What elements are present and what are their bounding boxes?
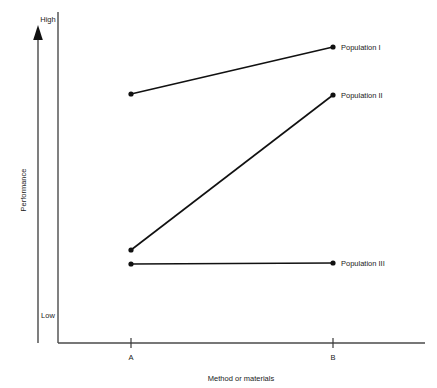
y-axis-title: Performance — [19, 169, 28, 212]
series-label-population-3: Population III — [341, 259, 385, 268]
data-point-population-1-b — [330, 44, 335, 49]
series-line-population-2 — [131, 95, 333, 250]
x-tick-label-b: B — [330, 353, 335, 362]
chart-canvas: Population I Population II Population II… — [0, 0, 437, 388]
performance-method-line-chart: Population I Population II Population II… — [0, 0, 437, 388]
x-tick-label-a: A — [128, 353, 133, 362]
series-label-population-2: Population II — [341, 91, 383, 100]
series-population-1 — [128, 44, 335, 96]
data-point-population-1-a — [128, 91, 133, 96]
series-line-population-1 — [131, 47, 333, 94]
y-axis-low-label: Low — [41, 311, 55, 320]
series-label-population-1: Population I — [341, 43, 381, 52]
performance-arrow-head — [33, 25, 43, 40]
data-point-population-3-a — [128, 261, 133, 266]
data-point-population-3-b — [330, 260, 335, 265]
y-axis-high-label: High — [40, 15, 55, 24]
series-population-2 — [128, 92, 335, 252]
series-population-3 — [128, 260, 335, 266]
data-point-population-2-b — [330, 92, 335, 97]
x-axis-title: Method or materials — [208, 374, 275, 383]
data-point-population-2-a — [128, 247, 133, 252]
series-line-population-3 — [131, 263, 333, 264]
